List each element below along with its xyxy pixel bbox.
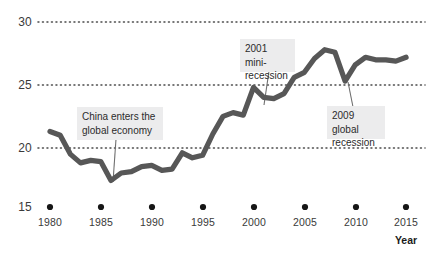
tick-dot-2015 <box>403 204 409 210</box>
y-axis-label-15: 15 <box>8 200 32 214</box>
tick-dot-1990 <box>149 204 155 210</box>
mini-recession-annotation: 2001 mini- recession <box>240 39 295 72</box>
x-axis-label-2000: 2000 <box>233 216 275 228</box>
x-axis-label-2010: 2010 <box>335 216 377 228</box>
global-recession-annotation: 2009 global recession <box>327 106 385 139</box>
x-axis-label-1995: 1995 <box>182 216 224 228</box>
chart-container: 30 25 20 15 1980 1985 1990 1995 2000 200… <box>0 0 439 254</box>
x-axis-label-2015: 2015 <box>385 216 427 228</box>
x-axis-label-1985: 1985 <box>80 216 122 228</box>
tick-dot-2000 <box>251 204 257 210</box>
y-axis-label-20: 20 <box>8 141 32 155</box>
global-recession-leader-line <box>348 82 353 107</box>
x-axis-title: Year <box>385 234 427 246</box>
y-axis-label-30: 30 <box>8 15 32 29</box>
y-axis-label-25: 25 <box>8 78 32 92</box>
tick-dot-1985 <box>98 204 104 210</box>
x-axis-label-1990: 1990 <box>131 216 173 228</box>
tick-dot-1995 <box>200 204 206 210</box>
x-axis-label-2005: 2005 <box>284 216 326 228</box>
tick-dot-2010 <box>353 204 359 210</box>
x-axis-tick-dots <box>47 204 409 210</box>
tick-dot-1980 <box>47 204 53 210</box>
x-axis-label-1980: 1980 <box>29 216 71 228</box>
tick-dot-2005 <box>302 204 308 210</box>
china-annotation: China enters the global economy <box>77 107 163 140</box>
